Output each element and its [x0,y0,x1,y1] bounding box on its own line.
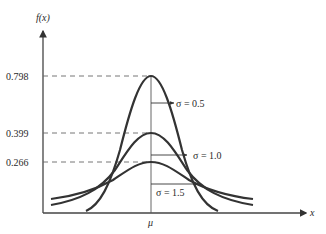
y-tick-0798: 0.798 [6,71,29,82]
normal-distribution-chart: f(x) x μ 0.798 0.399 0.266 σ = 0.5 σ = 1… [0,0,326,234]
label-sigma-1-0: σ = 1.0 [193,150,222,161]
label-sigma-1-5: σ = 1.5 [156,187,185,198]
y-axis-label: f(x) [36,12,51,24]
y-tick-0399: 0.399 [6,128,29,139]
mu-label: μ [147,217,153,228]
x-axis-label: x [309,207,315,218]
label-sigma-0-5: σ = 0.5 [176,98,205,109]
curve-sigma-1-5 [51,162,253,199]
curve-sigma-0-5 [86,76,218,211]
y-tick-0266: 0.266 [6,157,29,168]
